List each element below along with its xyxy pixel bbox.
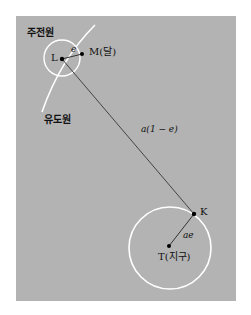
earth-circle <box>129 207 211 289</box>
label-point-M: M(달) <box>89 47 116 57</box>
label-perigee-circle: 주전원 <box>27 28 54 38</box>
point-T-dot <box>167 244 171 248</box>
point-K-dot <box>192 212 196 216</box>
label-distance-LK: a(1 − e) <box>141 125 178 134</box>
distance-line <box>62 59 194 214</box>
radius-e-line <box>62 54 82 59</box>
point-M-dot <box>80 52 84 56</box>
label-deferent-circle: 유도원 <box>44 115 71 125</box>
diagram-graphics <box>0 0 251 315</box>
label-radius-e: e <box>71 45 76 54</box>
deferent-arc <box>42 25 95 112</box>
point-L-dot <box>60 57 64 61</box>
label-point-L: L <box>51 53 58 63</box>
label-point-T: T(지구) <box>158 252 190 262</box>
label-radius-ae: ae <box>183 231 194 240</box>
label-point-K: K <box>200 207 207 217</box>
